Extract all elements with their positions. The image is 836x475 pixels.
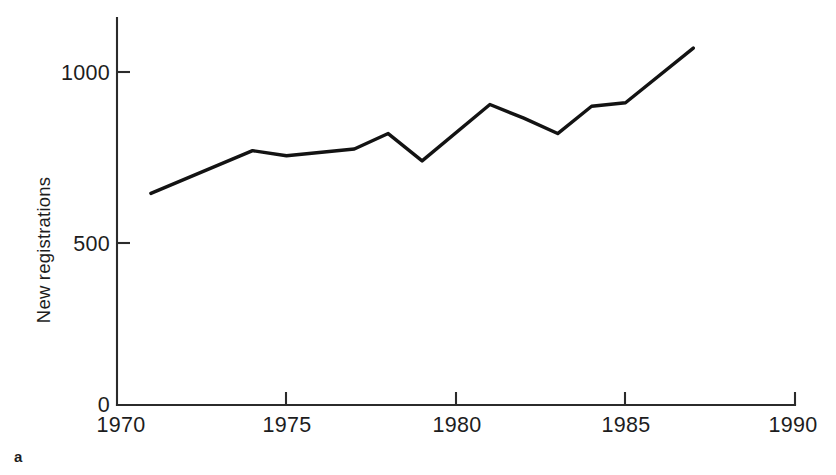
y-tick-label-500: 500 bbox=[73, 232, 110, 256]
x-tick-label-1970: 1970 bbox=[96, 413, 145, 437]
line-chart: 1000 500 0 1970 1975 1980 1985 1990 New … bbox=[0, 0, 836, 475]
axes-group bbox=[117, 18, 795, 405]
x-tick-labels: 1970 1975 1980 1985 1990 bbox=[96, 413, 817, 437]
x-tick-marks bbox=[286, 392, 795, 405]
x-tick-label-1980: 1980 bbox=[432, 413, 481, 437]
panel-label: a bbox=[14, 448, 23, 465]
x-tick-label-1985: 1985 bbox=[601, 413, 650, 437]
y-tick-labels: 1000 500 0 bbox=[61, 61, 110, 417]
x-tick-label-1975: 1975 bbox=[262, 413, 311, 437]
figure-panel: 1000 500 0 1970 1975 1980 1985 1990 New … bbox=[0, 0, 836, 475]
data-series-line bbox=[151, 48, 693, 193]
y-tick-marks bbox=[117, 72, 130, 243]
y-tick-label-1000: 1000 bbox=[61, 61, 110, 85]
y-axis-title: New registrations bbox=[33, 177, 54, 323]
x-tick-label-1990: 1990 bbox=[768, 413, 817, 437]
